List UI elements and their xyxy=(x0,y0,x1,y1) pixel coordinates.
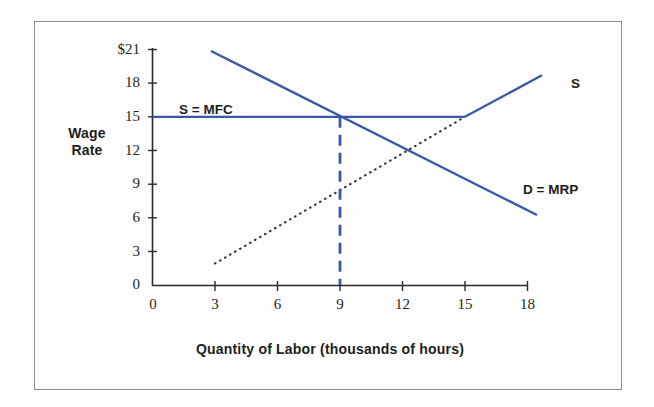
x-tick-label-15: 15 xyxy=(450,296,480,313)
y-tick-label-3: 3 xyxy=(100,243,140,260)
figure-root: Wage Rate Quantity of Labor (thousands o… xyxy=(0,0,654,407)
y-tick-label-6: 6 xyxy=(100,209,140,226)
x-tick-label-0: 0 xyxy=(138,296,168,313)
x-tick-label-18: 18 xyxy=(513,296,543,313)
curve-label-s: S xyxy=(571,76,580,91)
y-tick-label-18: 18 xyxy=(100,74,140,91)
y-tick-label-21: $21 xyxy=(100,41,140,58)
x-tick-label-12: 12 xyxy=(388,296,418,313)
y-axis-title-line1: Wage xyxy=(50,125,124,142)
x-tick-label-9: 9 xyxy=(325,296,355,313)
x-axis-title: Quantity of Labor (thousands of hours) xyxy=(120,341,540,357)
x-tick-label-6: 6 xyxy=(263,296,293,313)
y-tick-label-9: 9 xyxy=(100,175,140,192)
y-tick-label-15: 15 xyxy=(100,108,140,125)
curve-label-d-mrp: D = MRP xyxy=(523,182,578,197)
y-tick-label-12: 12 xyxy=(100,142,140,159)
curve-label-s-mfc: S = MFC xyxy=(179,102,233,117)
x-tick-label-3: 3 xyxy=(200,296,230,313)
y-tick-label-0: 0 xyxy=(100,276,140,293)
